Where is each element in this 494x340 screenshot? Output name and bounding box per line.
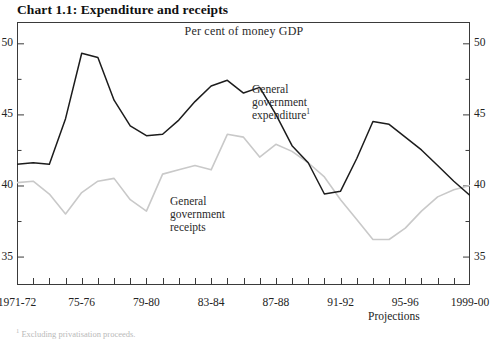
y-axis-tick-label: 40 bbox=[0, 178, 13, 190]
y-axis-tick-label: 50 bbox=[0, 36, 13, 48]
y-axis-ticks-left bbox=[17, 44, 24, 257]
x-axis-tick-label: 79-80 bbox=[133, 296, 160, 308]
annotation-expenditure-line2: government bbox=[252, 96, 310, 109]
y-axis-tick-label: 35 bbox=[0, 250, 13, 262]
x-axis-tick-label: 91-92 bbox=[327, 296, 354, 308]
annotation-expenditure-line1: General bbox=[252, 83, 310, 96]
chart-plot-area bbox=[17, 22, 470, 285]
y-axis-tick-label: 40 bbox=[474, 178, 494, 190]
x-axis-tick-label: 75-76 bbox=[68, 296, 95, 308]
annotation-expenditure: General government expenditure1 bbox=[252, 83, 310, 123]
x-axis-tick-label: 1999-00 bbox=[451, 296, 489, 308]
annotation-expenditure-superscript: 1 bbox=[306, 108, 310, 117]
annotation-receipts-line2: government bbox=[170, 208, 225, 221]
series-line-expenditure bbox=[17, 53, 470, 195]
annotation-expenditure-line3: expenditure bbox=[252, 109, 306, 121]
annotation-receipts-line3: receipts bbox=[170, 221, 225, 234]
page-title: Chart 1.1: Expenditure and receipts bbox=[17, 2, 228, 18]
y-axis-ticks-right bbox=[463, 44, 470, 257]
y-axis-tick-label: 45 bbox=[474, 107, 494, 119]
footnote-text: Excluding privatisation proceeds. bbox=[19, 329, 135, 339]
x-axis-tick-label: 1971-72 bbox=[0, 296, 36, 308]
projections-note: Projections bbox=[368, 310, 420, 322]
annotation-receipts-line1: General bbox=[170, 195, 225, 208]
footnote: 1 Excluding privatisation proceeds. bbox=[16, 329, 135, 339]
x-axis-tick-label: 83-84 bbox=[198, 296, 225, 308]
x-axis-ticks bbox=[18, 278, 471, 285]
annotation-receipts: General government receipts bbox=[170, 195, 225, 235]
series-line-receipts bbox=[17, 134, 470, 239]
x-axis-tick-label: 95-96 bbox=[392, 296, 419, 308]
y-axis-tick-label: 35 bbox=[474, 250, 494, 262]
y-axis-tick-label: 50 bbox=[474, 36, 494, 48]
annotation-expenditure-line3-wrap: expenditure1 bbox=[252, 109, 310, 122]
x-axis-tick-label: 87-88 bbox=[262, 296, 289, 308]
y-axis-tick-label: 45 bbox=[0, 107, 13, 119]
